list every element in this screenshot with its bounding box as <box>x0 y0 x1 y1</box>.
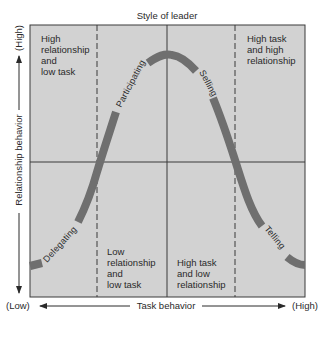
svg-text:and: and <box>107 268 123 279</box>
y-axis-high: (High) <box>13 25 24 51</box>
svg-text:low task: low task <box>107 279 142 290</box>
svg-text:High task: High task <box>177 257 217 268</box>
x-axis-label: Task behavior <box>137 300 196 311</box>
svg-text:Low: Low <box>107 246 125 257</box>
curve-segment-delegating-start <box>30 263 42 266</box>
svg-text:relationship: relationship <box>247 55 296 66</box>
y-axis-label: Relationship behavior <box>13 114 24 205</box>
y-axis: (High) Relationship behavior <box>13 25 24 293</box>
svg-text:low task: low task <box>41 66 76 77</box>
svg-text:relationship: relationship <box>177 279 226 290</box>
svg-text:High: High <box>41 33 61 44</box>
svg-text:relationship: relationship <box>107 257 156 268</box>
svg-text:and high: and high <box>247 44 283 55</box>
svg-text:High task: High task <box>247 33 287 44</box>
x-axis: (Low) Task behavior (High) <box>6 300 318 311</box>
leadership-style-diagram: Style of leader Delegating Participating… <box>0 0 327 341</box>
diagram-title: Style of leader <box>137 10 198 21</box>
svg-text:and low: and low <box>177 268 210 279</box>
x-axis-high: (High) <box>292 300 318 311</box>
svg-text:relationship: relationship <box>41 44 90 55</box>
svg-text:and: and <box>41 55 57 66</box>
x-axis-low: (Low) <box>6 300 30 311</box>
